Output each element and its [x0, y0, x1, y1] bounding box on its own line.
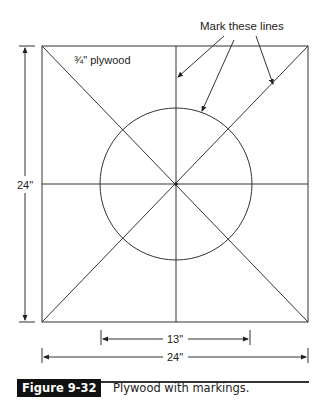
- callout-arrows: [178, 36, 273, 111]
- callout-label: Mark these lines: [200, 20, 284, 32]
- figure-caption: Plywood with markings.: [113, 379, 250, 397]
- center-point: [175, 183, 178, 186]
- height-dimension-label: 24": [17, 179, 33, 191]
- arrow-to-circle: [202, 40, 234, 111]
- circle-dimension-label: 13": [167, 333, 183, 345]
- arrow-to-diagonal: [256, 36, 273, 84]
- marking-lines: [42, 46, 308, 322]
- width-dimension-label: 24": [167, 351, 183, 363]
- figure-number: Figure 9-32: [17, 379, 101, 397]
- material-label: ¾" plywood: [74, 54, 131, 66]
- arrow-to-vertical-line: [178, 36, 224, 77]
- plywood-diagram: ¾" plywood Mark these lines 24" 13" 24": [0, 0, 331, 409]
